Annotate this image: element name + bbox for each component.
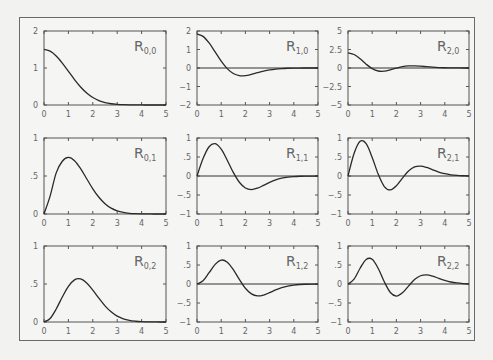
x-tick-label: 3 <box>418 219 423 228</box>
x-tick-label: 4 <box>139 219 144 228</box>
x-tick-label: 0 <box>194 110 199 119</box>
x-tick-label: 4 <box>291 110 296 119</box>
y-tick-label: 1 <box>33 64 38 73</box>
y-tick-label: −5 <box>330 101 342 110</box>
y-tick-label: 0 <box>33 318 38 327</box>
x-tick-label: 4 <box>442 110 447 119</box>
subplot-0-1: 0123450.51R0,1 <box>30 134 168 228</box>
x-tick-label: 2 <box>90 219 95 228</box>
y-tick-label: .5 <box>30 280 38 289</box>
x-tick-label: 2 <box>394 110 399 119</box>
y-tick-label: 0 <box>337 172 342 181</box>
x-tick-label: 0 <box>345 219 350 228</box>
subplot-0-2: 0123450.51R0,2 <box>30 242 168 336</box>
y-tick-label: 2.5 <box>329 46 342 55</box>
y-tick-label: .5 <box>334 261 342 270</box>
y-tick-label: 1 <box>186 134 191 143</box>
chart-grid: 012345012R0,0012345−2−1012R1,0012345−5−2… <box>0 0 493 360</box>
y-tick-label: 1 <box>337 134 342 143</box>
x-tick-label: 3 <box>267 110 272 119</box>
x-tick-label: 1 <box>66 327 71 336</box>
x-tick-label: 1 <box>66 110 71 119</box>
x-tick-label: 3 <box>115 219 120 228</box>
x-tick-label: 3 <box>267 327 272 336</box>
x-tick-label: 1 <box>219 327 224 336</box>
x-tick-label: 5 <box>163 110 168 119</box>
x-tick-label: 5 <box>315 110 320 119</box>
y-tick-label: .5 <box>183 261 191 270</box>
y-tick-label: 0 <box>33 101 38 110</box>
y-tick-label: −.5 <box>328 299 342 308</box>
x-tick-label: 4 <box>139 110 144 119</box>
subplot-2-2: 012345−1−.50.51R2,2 <box>328 242 472 336</box>
x-tick-label: 5 <box>315 219 320 228</box>
plot-area <box>44 138 166 214</box>
subplot-1-1: 012345−1−.50.51R1,1 <box>177 134 321 228</box>
x-tick-label: 5 <box>163 327 168 336</box>
y-tick-label: −2 <box>179 101 191 110</box>
y-tick-label: 0 <box>186 280 191 289</box>
y-tick-label: .5 <box>334 153 342 162</box>
y-tick-label: −.5 <box>177 191 191 200</box>
x-tick-label: 4 <box>291 327 296 336</box>
y-tick-label: 0 <box>337 280 342 289</box>
x-tick-label: 2 <box>394 219 399 228</box>
plot-area <box>44 246 166 322</box>
y-tick-label: 0 <box>337 64 342 73</box>
data-curve <box>44 279 166 322</box>
y-tick-label: 1 <box>337 242 342 251</box>
x-tick-label: 3 <box>267 219 272 228</box>
y-tick-label: −1 <box>330 210 342 219</box>
x-tick-label: 0 <box>41 327 46 336</box>
x-tick-label: 5 <box>315 327 320 336</box>
x-tick-label: 1 <box>370 327 375 336</box>
subplot-label: R1,0 <box>286 38 308 56</box>
x-tick-label: 1 <box>370 110 375 119</box>
data-curve <box>197 144 318 190</box>
y-tick-label: 1 <box>33 134 38 143</box>
x-tick-label: 5 <box>466 219 471 228</box>
x-tick-label: 2 <box>90 327 95 336</box>
subplot-label: R0,0 <box>134 38 156 56</box>
y-tick-label: 1 <box>186 242 191 251</box>
x-tick-label: 2 <box>243 110 248 119</box>
x-tick-label: 1 <box>66 219 71 228</box>
subplot-2-1: 012345−1−.50.51R2,1 <box>328 134 472 228</box>
y-tick-label: −1 <box>179 210 191 219</box>
x-tick-label: 3 <box>115 110 120 119</box>
x-tick-label: 0 <box>345 327 350 336</box>
x-tick-label: 4 <box>442 219 447 228</box>
y-tick-label: 0 <box>186 172 191 181</box>
x-tick-label: 1 <box>219 219 224 228</box>
y-tick-label: 2 <box>33 27 38 36</box>
y-tick-label: −1 <box>179 83 191 92</box>
subplot-label: R2,1 <box>437 145 459 163</box>
data-curve <box>348 141 469 190</box>
y-tick-label: .5 <box>30 172 38 181</box>
subplot-label: R2,0 <box>437 38 459 56</box>
x-tick-label: 0 <box>194 327 199 336</box>
y-tick-label: 0 <box>33 210 38 219</box>
x-tick-label: 4 <box>139 327 144 336</box>
subplot-1-0: 012345−2−1012R1,0 <box>179 27 320 119</box>
subplot-2-0: 012345−5−2.502.55R2,0 <box>323 27 472 119</box>
x-tick-label: 5 <box>163 219 168 228</box>
x-tick-label: 1 <box>219 110 224 119</box>
y-tick-label: .5 <box>183 153 191 162</box>
y-tick-label: −1 <box>179 318 191 327</box>
x-tick-label: 5 <box>466 327 471 336</box>
x-tick-label: 1 <box>370 219 375 228</box>
subplot-label: R1,2 <box>286 253 308 271</box>
y-tick-label: 1 <box>186 46 191 55</box>
x-tick-label: 2 <box>394 327 399 336</box>
x-tick-label: 2 <box>243 327 248 336</box>
x-tick-label: 5 <box>466 110 471 119</box>
y-tick-label: −2.5 <box>323 83 342 92</box>
x-tick-label: 0 <box>345 110 350 119</box>
x-tick-label: 3 <box>418 327 423 336</box>
plot-area <box>44 31 166 105</box>
y-tick-label: −.5 <box>177 299 191 308</box>
subplot-label: R1,1 <box>286 145 308 163</box>
y-tick-label: 5 <box>337 27 342 36</box>
y-tick-label: 1 <box>33 242 38 251</box>
